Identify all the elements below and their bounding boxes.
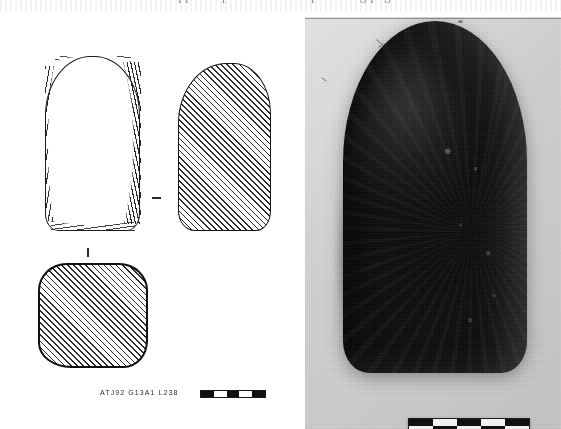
front-view-top-hatching xyxy=(55,56,131,72)
photo-top-border-rule xyxy=(305,18,561,19)
front-view-bottom-hatching xyxy=(51,217,135,231)
artefact-surface-texture xyxy=(343,21,527,373)
catalogue-label: ATJ92 G13A1 L238 xyxy=(100,389,179,396)
cutoff-caption-strip: clipped caption line from preceding page xyxy=(0,0,561,11)
front-view-right-hatching xyxy=(113,62,141,224)
scale-segment xyxy=(227,391,240,397)
scale-segment xyxy=(239,391,252,397)
scale-segment xyxy=(201,391,214,397)
drawing-side-view xyxy=(178,63,271,231)
photo-scale-cell xyxy=(505,426,529,429)
photo-scale-cell xyxy=(457,426,481,429)
scale-segment xyxy=(214,391,227,397)
scale-segment xyxy=(252,391,265,397)
line-drawing-panel: ATJ92 G13A1 L238 xyxy=(0,11,300,429)
front-view-left-hatching xyxy=(45,66,61,221)
side-view-hatched-body xyxy=(178,63,271,231)
photo-scale-cell xyxy=(433,426,457,429)
photo-blemish xyxy=(458,20,463,23)
cutoff-caption-text: clipped caption line from preceding page xyxy=(0,0,561,4)
photograph-panel xyxy=(305,17,561,429)
drawing-scale-bar xyxy=(200,390,266,398)
drawing-cross-section-view xyxy=(38,263,148,368)
photo-scale-cell xyxy=(409,426,433,429)
artefact-left-shadow xyxy=(337,162,363,359)
photo-scale-row-bottom xyxy=(409,426,529,429)
alignment-tick-horizontal xyxy=(152,197,161,199)
photographed-stone-artefact xyxy=(343,21,527,373)
alignment-tick-vertical xyxy=(87,248,89,257)
drawing-front-view xyxy=(45,56,140,231)
cross-section-hatched-body xyxy=(38,263,148,368)
photo-scale-bar xyxy=(408,418,530,429)
photo-scale-cell xyxy=(481,426,505,429)
